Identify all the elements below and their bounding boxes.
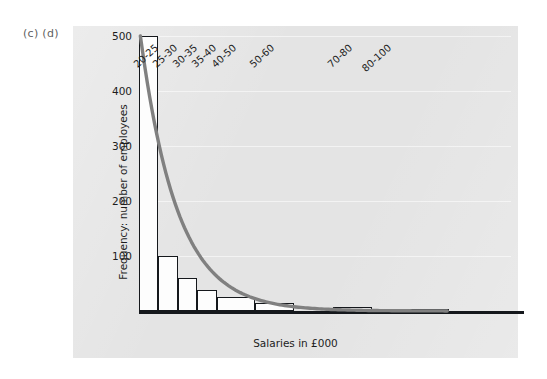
x-axis-title: Salaries in £000 (73, 337, 518, 349)
figure-part-label: (c) (d) (23, 27, 59, 40)
plot-area: 100200300400500 20-2525-3030-3535-4040-5… (139, 36, 511, 311)
y-tick-label: 500 (112, 30, 132, 42)
chart-panel: 100200300400500 20-2525-3030-3535-4040-5… (73, 26, 518, 358)
y-axis-title: Frequency: number of employees (117, 82, 129, 302)
frequency-curve (139, 36, 511, 335)
figure-root: (c) (d) 100200300400500 20-2525-3030-353… (0, 0, 547, 379)
